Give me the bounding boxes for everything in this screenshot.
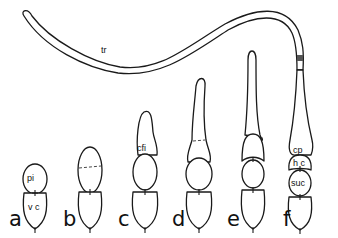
label-cfi: cfi (137, 143, 146, 153)
stage-d (186, 79, 212, 234)
label-cp: cp (293, 145, 303, 155)
basal-cell (241, 190, 264, 229)
basal-cell (186, 192, 211, 229)
label-suc: suc (291, 178, 306, 188)
elongating-cell (187, 79, 210, 163)
cp-cell (289, 70, 313, 155)
label-vc: v c (28, 202, 40, 212)
stage-a: pi v c (23, 164, 47, 233)
stage-c: cfi (132, 111, 157, 233)
head-cell (242, 134, 264, 161)
label-hc: h c (293, 158, 306, 168)
middle-cell (186, 158, 212, 190)
stage-b (78, 147, 102, 233)
basal-cell (132, 192, 157, 229)
stage-e (241, 51, 264, 233)
middle-cell (133, 154, 157, 190)
trophic-tube (23, 11, 303, 74)
basal-cell (78, 192, 101, 229)
stage-label-c: c (118, 207, 130, 231)
stage-label-b: b (63, 207, 76, 231)
tube-band (297, 55, 303, 61)
developmental-stages-diagram: tr pi v c a b cfi c d (0, 0, 338, 238)
stage-label-f: f (283, 207, 291, 231)
elongated-cell (78, 147, 102, 193)
basal-cell (288, 197, 311, 230)
stage-label-d: d (172, 207, 185, 231)
label-pi: pi (27, 173, 34, 183)
stage-label-a: a (9, 207, 22, 231)
label-tr: tr (101, 45, 107, 55)
stage-f: cp h c suc (288, 70, 313, 234)
middle-cell (242, 160, 264, 188)
stage-label-e: e (227, 207, 240, 231)
elongated-tube-cell (245, 51, 262, 140)
